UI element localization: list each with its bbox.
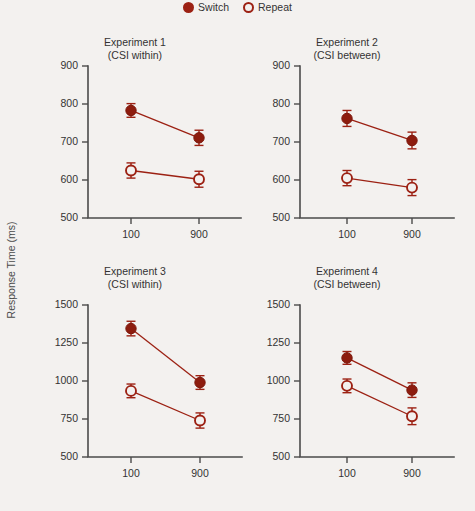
- panel-1-title-line2: (CSI within): [30, 49, 240, 62]
- panel-3-title-line2: (CSI within): [30, 278, 240, 291]
- series-switch-point: [407, 385, 417, 395]
- y-tick-label: 800: [272, 97, 290, 109]
- series-repeat-point: [195, 416, 205, 426]
- y-tick-label: 1250: [55, 336, 79, 348]
- panel-experiment-1: Experiment 1 (CSI within) 50060070080090…: [30, 36, 240, 236]
- plot-axes: [300, 305, 454, 457]
- y-tick-label: 500: [272, 450, 290, 462]
- panel-4-title-line1: Experiment 4: [316, 265, 378, 277]
- panel-3-title-line1: Experiment 3: [104, 265, 166, 277]
- legend-entry-switch: Switch: [183, 2, 229, 13]
- panel-2-title-line1: Experiment 2: [316, 36, 378, 48]
- series-repeat-point: [126, 386, 136, 396]
- series-repeat-point: [407, 183, 417, 193]
- y-tick-label: 700: [272, 135, 290, 147]
- panel-2-plot: 500600700800900100900: [242, 36, 452, 236]
- y-tick-label: 500: [272, 211, 290, 223]
- y-tick-label: 1500: [267, 298, 291, 310]
- panel-4-title-line2: (CSI between): [242, 278, 452, 291]
- series-repeat-point: [194, 174, 204, 184]
- y-tick-label: 600: [60, 173, 78, 185]
- y-axis-label: Response Time (ms): [5, 222, 17, 319]
- y-tick-label: 700: [60, 135, 78, 147]
- y-tick-label: 1250: [267, 336, 291, 348]
- panel-experiment-4: Experiment 4 (CSI between) 5007501000125…: [242, 265, 452, 490]
- panel-4-plot: 500750100012501500100900: [242, 265, 452, 490]
- panel-1-title: Experiment 1 (CSI within): [30, 36, 240, 61]
- panel-experiment-2: Experiment 2 (CSI between) 5006007008009…: [242, 36, 452, 236]
- series-switch-point: [342, 353, 352, 363]
- series-switch-line: [347, 358, 412, 390]
- x-tick-label: 900: [403, 467, 421, 479]
- y-tick-label: 1500: [55, 298, 79, 310]
- y-tick-label: 500: [60, 450, 78, 462]
- plot-axes: [88, 66, 241, 218]
- series-repeat-line: [131, 171, 199, 180]
- legend-label-switch: Switch: [198, 2, 229, 13]
- series-switch-point: [126, 323, 136, 333]
- open-circle-icon: [243, 2, 254, 13]
- series-switch-line: [131, 110, 199, 137]
- panel-3-plot: 500750100012501500100900: [30, 265, 240, 490]
- y-tick-label: 750: [272, 412, 290, 424]
- panel-1-title-line1: Experiment 1: [104, 36, 166, 48]
- series-switch-point: [342, 113, 352, 123]
- chart-legend: Switch Repeat: [0, 2, 475, 13]
- panel-experiment-3: Experiment 3 (CSI within) 50075010001250…: [30, 265, 240, 490]
- panel-1-plot: 500600700800900100900: [30, 36, 240, 236]
- y-tick-label: 600: [272, 173, 290, 185]
- series-repeat-point: [126, 166, 136, 176]
- series-switch-line: [347, 118, 412, 140]
- x-tick-label: 900: [403, 228, 421, 240]
- series-switch-point: [126, 105, 136, 115]
- y-tick-label: 500: [60, 211, 78, 223]
- series-switch-point: [195, 377, 205, 387]
- series-switch-point: [407, 135, 417, 145]
- plot-axes: [300, 66, 454, 218]
- y-tick-label: 1000: [55, 374, 79, 386]
- panel-4-title: Experiment 4 (CSI between): [242, 265, 452, 290]
- y-tick-label: 1000: [267, 374, 291, 386]
- series-repeat-point: [342, 173, 352, 183]
- x-tick-label: 900: [191, 467, 209, 479]
- x-tick-label: 100: [122, 467, 140, 479]
- y-axis-label-container: Response Time (ms): [0, 170, 22, 370]
- x-tick-label: 900: [190, 228, 208, 240]
- x-tick-label: 100: [338, 467, 356, 479]
- x-tick-label: 100: [122, 228, 140, 240]
- filled-circle-icon: [183, 2, 194, 13]
- legend-entry-repeat: Repeat: [243, 2, 292, 13]
- series-repeat-line: [347, 178, 412, 188]
- series-repeat-line: [131, 391, 200, 421]
- panel-2-title-line2: (CSI between): [242, 49, 452, 62]
- plot-axes: [88, 305, 242, 457]
- panel-3-title: Experiment 3 (CSI within): [30, 265, 240, 290]
- figure-canvas: Switch Repeat Response Time (ms) Experim…: [0, 0, 475, 511]
- series-repeat-line: [347, 386, 412, 416]
- y-tick-label: 800: [60, 97, 78, 109]
- series-repeat-point: [407, 411, 417, 421]
- legend-label-repeat: Repeat: [258, 2, 292, 13]
- x-tick-label: 100: [338, 228, 356, 240]
- series-repeat-point: [342, 381, 352, 391]
- y-tick-label: 750: [60, 412, 78, 424]
- series-switch-point: [194, 133, 204, 143]
- series-switch-line: [131, 329, 200, 383]
- panel-2-title: Experiment 2 (CSI between): [242, 36, 452, 61]
